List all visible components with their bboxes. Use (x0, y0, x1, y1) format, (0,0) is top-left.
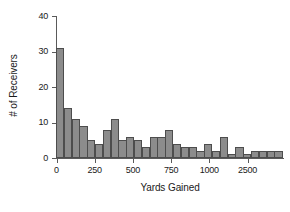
histogram-figure: 010203040 # of Receivers 025050075010002… (0, 0, 290, 212)
y-tick-label: 30 (22, 47, 48, 56)
x-tick-mark (248, 159, 249, 163)
x-axis-line (56, 158, 284, 159)
x-tick-label: 1000 (200, 166, 219, 175)
x-tick-mark (95, 159, 96, 163)
x-tick-label: 0 (54, 166, 59, 175)
x-tick-label: 2500 (238, 166, 257, 175)
y-tick-label: 10 (22, 118, 48, 127)
x-tick-label: 500 (126, 166, 140, 175)
y-tick-label: 0 (22, 154, 48, 163)
histogram-bars (56, 16, 284, 158)
y-tick-label-wrap: 20 (22, 83, 48, 92)
x-tick-mark (171, 159, 172, 163)
x-tick-mark (57, 159, 58, 163)
x-tick-label: 250 (87, 166, 101, 175)
x-tick-label: 750 (164, 166, 178, 175)
y-tick-label-wrap: 40 (22, 12, 48, 21)
y-axis-title: # of Receivers (8, 21, 19, 151)
y-tick-label-wrap: 0 (22, 154, 48, 163)
x-tick-mark (133, 159, 134, 163)
x-axis-title: Yards Gained (56, 182, 284, 193)
y-tick-label: 40 (22, 12, 48, 21)
x-tick-mark (209, 159, 210, 163)
y-tick-label: 20 (22, 83, 48, 92)
y-tick-label-wrap: 30 (22, 47, 48, 56)
histogram-bar (274, 151, 282, 158)
y-tick-label-wrap: 10 (22, 118, 48, 127)
